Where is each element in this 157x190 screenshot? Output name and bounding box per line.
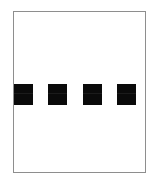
marker-square-1-label	[14, 84, 15, 85]
figure-caption	[0, 0, 1, 1]
marker-square-4	[117, 84, 136, 105]
marker-row	[14, 84, 136, 105]
marker-square-3-label	[83, 84, 84, 85]
figure-canvas	[0, 0, 157, 190]
marker-square-2-label	[48, 84, 49, 85]
marker-square-1	[14, 84, 33, 105]
marker-square-3	[83, 84, 102, 105]
marker-square-2	[48, 84, 67, 105]
figure-title	[0, 0, 1, 1]
marker-square-4-label	[117, 84, 118, 85]
